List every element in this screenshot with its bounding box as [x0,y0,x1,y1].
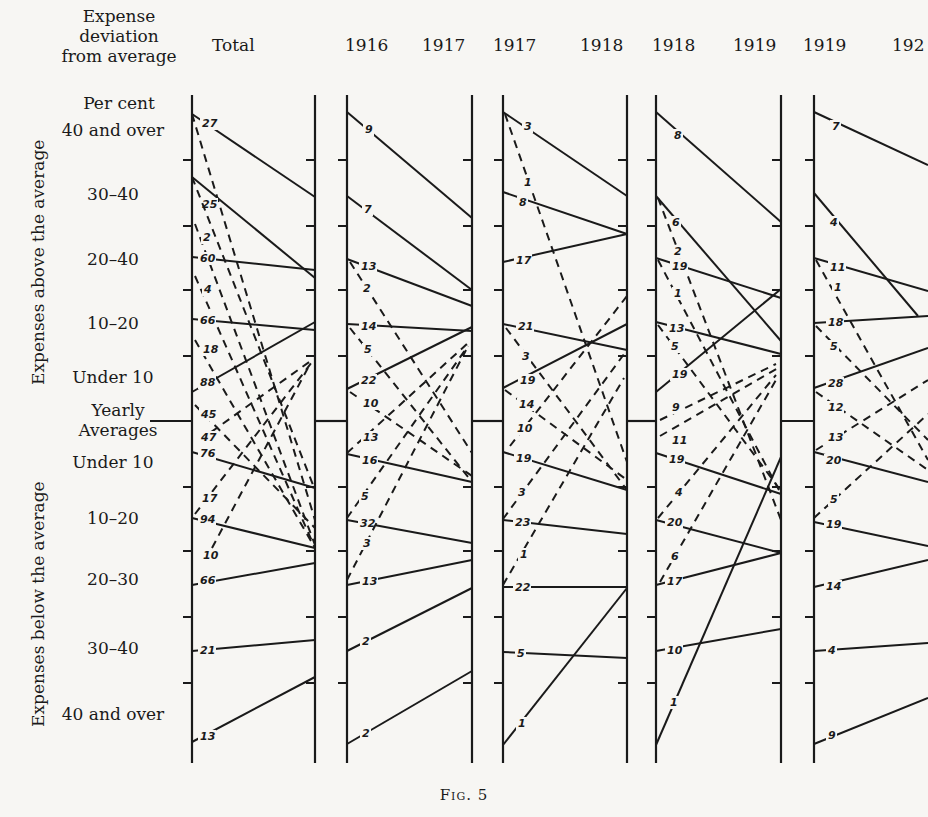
count-label: 4 [829,216,838,229]
count-label: 13 [362,575,378,588]
figure-caption: Fig. 5 [0,786,928,804]
count-label: 10 [667,644,683,657]
count-label: 10 [363,397,379,410]
count-label: 60 [200,252,216,265]
count-label: 13 [200,730,216,743]
count-label: 20 [826,454,842,467]
dashed-transition-line [195,405,315,528]
count-label: 3 [363,537,371,550]
count-label: 5 [671,340,679,353]
count-label: 2 [203,231,211,244]
count-label: 1 [670,696,678,709]
count-label: 10 [203,549,219,562]
count-label: 4 [674,486,683,499]
count-label: 17 [202,492,218,505]
count-label: 11 [830,261,845,274]
count-label: 7 [364,203,372,216]
count-label: 13 [669,322,685,335]
count-label: 14 [361,320,376,333]
count-label: 12 [828,401,844,414]
count-label: 76 [200,447,216,460]
count-label: 2 [363,282,371,295]
count-label: 2 [674,245,682,258]
count-label: 3 [518,486,526,499]
count-label: 16 [362,454,378,467]
count-label: 27 [202,117,218,130]
count-label: 45 [200,408,217,421]
count-label: 23 [515,516,531,529]
count-label: 9 [672,401,680,414]
count-label: 22 [515,581,531,594]
count-label: 4 [203,283,212,296]
count-label: 1 [674,287,682,300]
count-label: 88 [200,376,216,389]
count-label: 5 [830,493,838,506]
count-label: 18 [203,343,219,356]
count-label: 47 [200,431,217,444]
dashed-transition-line [200,360,312,440]
count-label: 17 [516,254,532,267]
count-label: 18 [828,316,844,329]
count-label: 22 [361,374,377,387]
count-label: 5 [517,647,525,660]
count-label: 9 [828,729,836,742]
count-label: 1 [834,281,842,294]
count-label: 7 [832,120,840,133]
count-label: 19 [672,260,688,273]
count-label: 2 [362,635,370,648]
count-label: 19 [669,453,685,466]
count-label: 5 [361,490,369,503]
count-label: 11 [672,434,687,447]
count-label: 8 [519,196,527,209]
count-label: 5 [830,340,838,353]
count-label: 10 [517,422,533,435]
count-label: 9 [365,123,373,136]
solid-transition-line [503,112,627,196]
count-label: 1 [518,717,526,730]
count-label: 94 [200,513,215,526]
slope-chart: 2725260466188845477617941066211397132145… [0,0,928,817]
count-label: 3 [524,120,532,133]
count-label: 19 [672,368,688,381]
count-label: 13 [363,431,379,444]
count-label: 21 [200,644,215,657]
count-label: 21 [518,320,533,333]
count-label: 6 [672,216,680,229]
count-label: 5 [364,343,372,356]
count-label: 14 [519,398,534,411]
count-label: 14 [826,580,841,593]
count-label: 8 [674,129,682,142]
count-label: 4 [827,644,836,657]
count-label: 66 [200,574,216,587]
count-label: 20 [667,516,683,529]
count-label: 1 [520,548,528,561]
solid-transition-line [814,193,918,316]
count-label: 19 [826,518,842,531]
count-label: 13 [828,431,844,444]
count-label: 2 [362,727,370,740]
count-label: 1 [524,176,532,189]
count-label: 6 [671,550,679,563]
count-label: 3 [522,350,530,363]
count-label: 28 [828,377,844,390]
count-label: 13 [361,260,377,273]
count-label: 17 [667,575,683,588]
count-label: 19 [520,374,536,387]
count-label: 66 [200,314,216,327]
count-label: 19 [516,452,532,465]
